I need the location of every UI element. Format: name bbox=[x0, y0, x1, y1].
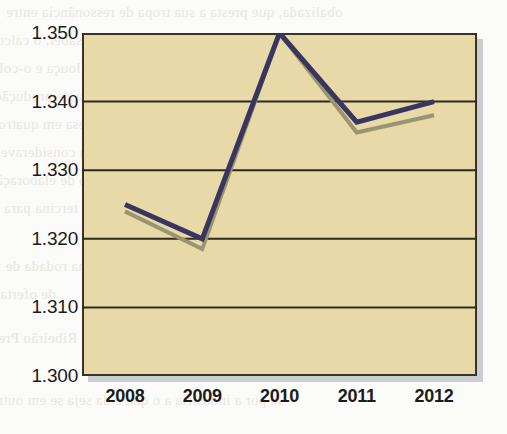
data-line-series-navy bbox=[125, 33, 434, 239]
x-axis-tick-label: 2009 bbox=[183, 386, 222, 407]
x-axis-tick-label: 2008 bbox=[105, 386, 144, 407]
y-axis-tick-label: 1.320 bbox=[6, 228, 78, 250]
x-axis-tick-label: 2011 bbox=[338, 386, 376, 407]
x-axis-tick-label: 2012 bbox=[414, 386, 453, 407]
series-layer bbox=[125, 33, 434, 249]
x-axis-tick-label: 2010 bbox=[260, 386, 299, 407]
gridlines bbox=[82, 102, 477, 308]
y-axis-tick-label: 1.340 bbox=[6, 91, 78, 113]
y-axis-tick-label: 1.330 bbox=[6, 159, 78, 181]
line-chart: 1.3501.3401.3301.3201.3101.300 200820092… bbox=[0, 0, 507, 434]
y-axis-tick-label: 1.300 bbox=[6, 365, 78, 387]
x-axis: 20082009201020112012 bbox=[0, 386, 507, 416]
y-axis-tick-label: 1.310 bbox=[6, 296, 78, 318]
y-axis: 1.3501.3401.3301.3201.3101.300 bbox=[2, 0, 78, 434]
plot-canvas bbox=[82, 33, 477, 376]
y-axis-tick-label: 1.350 bbox=[6, 22, 78, 44]
data-line-series-olive bbox=[125, 33, 434, 249]
